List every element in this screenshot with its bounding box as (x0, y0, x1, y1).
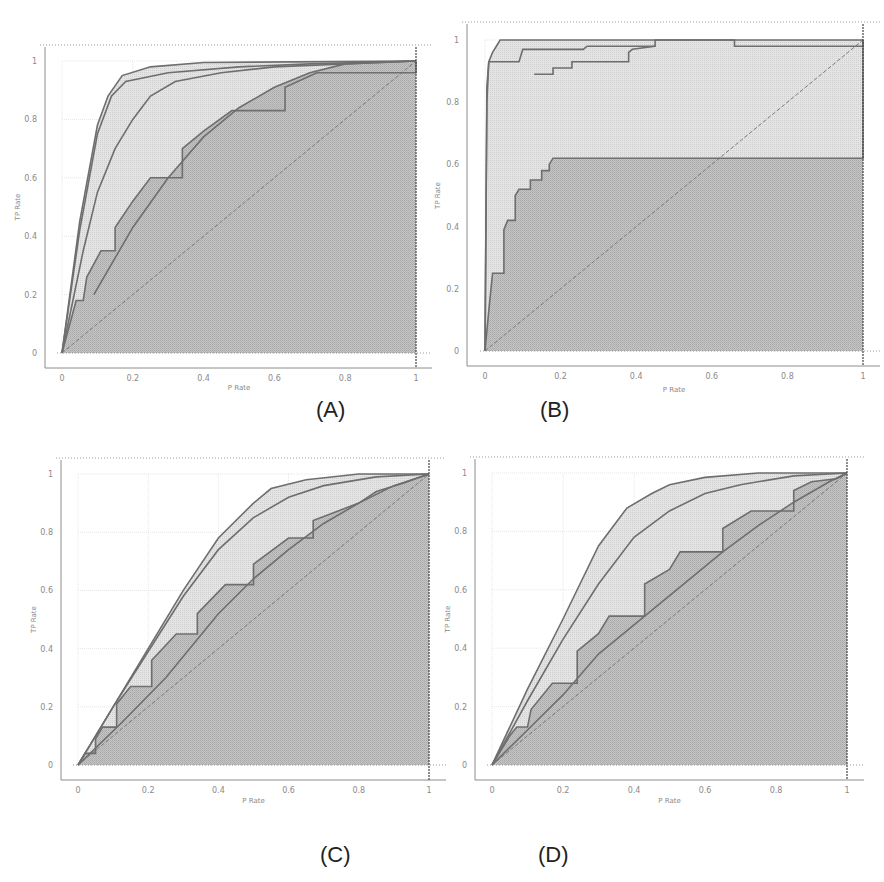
y-tick-label: 0.6 (24, 174, 37, 183)
panel-a: 00.20.40.60.8100.20.40.60.81P RateTP Rat… (14, 45, 432, 392)
y-tick-label: 1 (454, 36, 459, 45)
panel-label-c: (C) (320, 842, 351, 867)
panel-label-d: (D) (538, 842, 569, 867)
x-tick-label: 0 (489, 786, 494, 795)
y-tick-label: 0.4 (24, 232, 37, 241)
y-axis-label: TP Rate (14, 194, 22, 222)
x-axis-label: P Rate (242, 797, 265, 805)
x-tick-label: 0.2 (126, 374, 139, 383)
y-tick-label: 0.8 (454, 527, 467, 536)
x-tick-label: 0.8 (339, 374, 352, 383)
x-tick-label: 0.6 (705, 372, 718, 381)
y-tick-label: 0.2 (454, 703, 467, 712)
y-tick-label: 0.6 (40, 586, 53, 595)
x-tick-label: 0.8 (770, 786, 783, 795)
y-tick-label: 1 (32, 57, 37, 66)
panel-label-b: (B) (540, 397, 569, 422)
x-tick-label: 0 (482, 372, 487, 381)
x-tick-label: 0.6 (699, 786, 712, 795)
y-tick-label: 0.2 (24, 291, 37, 300)
x-tick-label: 0.6 (268, 374, 281, 383)
x-tick-label: 0.8 (781, 372, 794, 381)
y-axis-label: TP Rate (434, 182, 442, 210)
y-tick-label: 0.2 (40, 703, 53, 712)
x-axis-label: P Rate (228, 384, 251, 392)
y-tick-label: 1 (462, 469, 467, 478)
panel-b: 00.20.40.60.8100.20.40.60.81P RateTP Rat… (434, 22, 880, 394)
x-tick-label: 0.4 (630, 372, 643, 381)
y-tick-label: 0 (48, 761, 53, 770)
panel-c: 00.20.40.60.8100.20.40.60.81P RateTP Rat… (30, 458, 446, 805)
y-tick-label: 0.6 (454, 586, 467, 595)
x-axis-label: P Rate (663, 386, 686, 394)
y-tick-label: 0.4 (446, 223, 459, 232)
y-axis-label: TP Rate (30, 606, 38, 634)
x-tick-label: 0.4 (212, 786, 225, 795)
x-tick-label: 1 (426, 786, 431, 795)
y-tick-label: 0.4 (454, 644, 467, 653)
x-tick-label: 0.2 (142, 786, 155, 795)
y-axis-label: TP Rate (444, 606, 452, 634)
y-tick-label: 0 (462, 761, 467, 770)
x-tick-label: 1 (844, 786, 849, 795)
panel-label-a: (A) (316, 397, 345, 422)
x-tick-label: 0.2 (557, 786, 570, 795)
y-tick-label: 0.6 (446, 160, 459, 169)
x-tick-label: 0.4 (628, 786, 641, 795)
x-tick-label: 0.8 (352, 786, 365, 795)
x-tick-label: 1 (860, 372, 865, 381)
x-tick-label: 0 (59, 374, 64, 383)
y-tick-label: 0.2 (446, 285, 459, 294)
x-axis-label: P Rate (658, 797, 681, 805)
x-tick-label: 0.6 (282, 786, 295, 795)
panel-d: 00.20.40.60.8100.20.40.60.81P RateTP Rat… (444, 457, 864, 805)
y-tick-label: 1 (48, 470, 53, 479)
x-tick-label: 1 (413, 374, 418, 383)
x-tick-label: 0 (75, 786, 80, 795)
x-tick-label: 0.4 (197, 374, 210, 383)
y-tick-label: 0 (454, 347, 459, 356)
roc-figure: 00.20.40.60.8100.20.40.60.81P RateTP Rat… (0, 0, 884, 882)
x-tick-label: 0.2 (554, 372, 567, 381)
y-tick-label: 0 (32, 349, 37, 358)
y-tick-label: 0.8 (40, 528, 53, 537)
y-tick-label: 0.8 (24, 115, 37, 124)
y-tick-label: 0.8 (446, 98, 459, 107)
y-tick-label: 0.4 (40, 645, 53, 654)
